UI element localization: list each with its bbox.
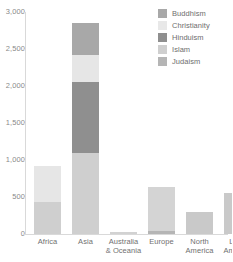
bar-asia[interactable] bbox=[72, 12, 99, 234]
bar-segment-islam[interactable] bbox=[34, 202, 61, 234]
x-axis-label-latin-america: LatinAmerica bbox=[218, 237, 233, 255]
x-axis-label-africa: Africa bbox=[28, 237, 68, 246]
bar-segment-christianity[interactable] bbox=[34, 166, 61, 202]
y-axis-tick-label: 1,000 bbox=[1, 156, 25, 164]
y-axis-tick-label: 1,500 bbox=[1, 119, 25, 127]
legend-item-hinduism[interactable]: Hinduism bbox=[158, 31, 232, 43]
y-axis-tick-label: 500 bbox=[1, 193, 25, 201]
x-axis-label-australia-oceania: Australia& Oceania bbox=[104, 237, 144, 255]
x-axis-label-line: America bbox=[218, 246, 233, 255]
bar-africa[interactable] bbox=[34, 12, 61, 234]
x-axis-label-line: Latin bbox=[218, 237, 233, 246]
x-axis-label-line: Australia bbox=[104, 237, 144, 246]
bar-segment-buddhism[interactable] bbox=[72, 23, 99, 55]
chart-container: 05001,0001,5002,0002,5003,000 AfricaAsia… bbox=[0, 0, 232, 262]
bar-segment-christianity[interactable] bbox=[110, 232, 137, 234]
legend-swatch-islam bbox=[158, 45, 167, 54]
legend-item-islam[interactable]: Islam bbox=[158, 43, 232, 55]
bar-australia-oceania[interactable] bbox=[110, 12, 137, 234]
x-axis-label-line: North bbox=[180, 237, 220, 246]
x-axis-label-line: Africa bbox=[28, 237, 68, 246]
x-axis-label-line: Asia bbox=[66, 237, 106, 246]
x-axis-label-line: & Oceania bbox=[104, 246, 144, 255]
legend-label-christianity: Christianity bbox=[172, 21, 210, 30]
x-axis-label-line: Europe bbox=[142, 237, 182, 246]
bar-segment-christianity[interactable] bbox=[72, 55, 99, 82]
y-axis-tick-label: 0 bbox=[1, 230, 25, 238]
bar-segment-judaism[interactable] bbox=[148, 231, 175, 234]
legend-swatch-buddhism bbox=[158, 9, 167, 18]
legend-item-buddhism[interactable]: Buddhism bbox=[158, 7, 232, 19]
legend-swatch-christianity bbox=[158, 21, 167, 30]
chart-legend: BuddhismChristianityHinduismIslamJudaism bbox=[158, 7, 232, 67]
y-axis-tick-label: 2,500 bbox=[1, 45, 25, 53]
legend-label-hinduism: Hinduism bbox=[172, 33, 204, 42]
x-axis-label-north-america: NorthAmerica bbox=[180, 237, 220, 255]
bar-segment-islam[interactable] bbox=[72, 153, 99, 234]
x-axis-label-asia: Asia bbox=[66, 237, 106, 246]
y-axis-tick-label: 3,000 bbox=[1, 8, 25, 16]
x-axis-label-line: America bbox=[180, 246, 220, 255]
bar-segment-christianity[interactable] bbox=[224, 193, 232, 234]
x-axis-label-europe: Europe bbox=[142, 237, 182, 246]
legend-label-islam: Islam bbox=[172, 45, 190, 54]
bar-segment-hinduism[interactable] bbox=[72, 82, 99, 152]
legend-swatch-judaism bbox=[158, 57, 167, 66]
legend-label-judaism: Judaism bbox=[172, 57, 200, 66]
bar-segment-christianity[interactable] bbox=[186, 212, 213, 234]
legend-item-judaism[interactable]: Judaism bbox=[158, 55, 232, 67]
x-axis-line bbox=[25, 234, 228, 235]
y-axis: 05001,0001,5002,0002,5003,000 bbox=[0, 0, 25, 262]
legend-label-buddhism: Buddhism bbox=[172, 9, 206, 18]
bar-segment-christianity[interactable] bbox=[148, 187, 175, 231]
legend-swatch-hinduism bbox=[158, 33, 167, 42]
legend-item-christianity[interactable]: Christianity bbox=[158, 19, 232, 31]
y-axis-tick-label: 2,000 bbox=[1, 82, 25, 90]
